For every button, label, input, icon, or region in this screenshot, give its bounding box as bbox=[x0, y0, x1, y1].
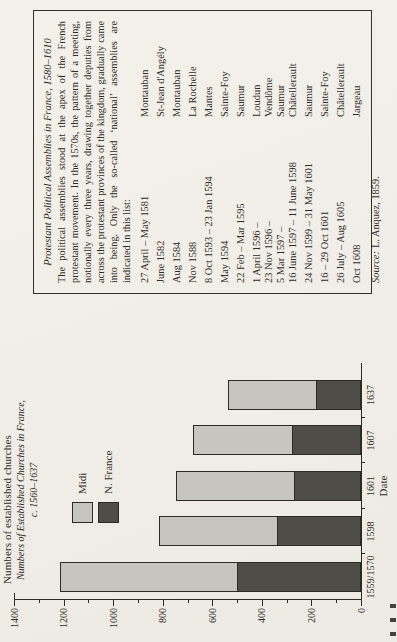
y-minor-tick bbox=[138, 600, 139, 604]
assembly-place: La Rochelle bbox=[187, 67, 199, 118]
assembly-place: Châtellerault bbox=[335, 63, 347, 117]
y-minor-tick bbox=[88, 600, 89, 604]
assembly-date: 22 Feb – Mar 1595 bbox=[235, 203, 246, 283]
assembly-place: Saumur bbox=[303, 85, 315, 117]
chart: Numbers of established churches Numbers … bbox=[0, 321, 397, 642]
scanned-page: Numbers of established churches Numbers … bbox=[0, 0, 397, 642]
y-tick-label: 1200 bbox=[58, 608, 69, 640]
assembly-list: 27 April – May 1581MontaubanJune 1582St-… bbox=[139, 21, 363, 283]
bar-segment-midi bbox=[193, 426, 292, 456]
bar-segment-midi bbox=[60, 562, 238, 592]
assemblies-box-intro: The political assemblies stood at the ap… bbox=[56, 21, 133, 283]
assembly-date: 23 Nov 1596 – bbox=[263, 221, 274, 283]
assembly-entry: Nov 1588La Rochelle bbox=[187, 21, 199, 283]
x-axis bbox=[361, 363, 362, 600]
assembly-date: 16 June 1597 – 11 June 1598 bbox=[287, 162, 298, 283]
assembly-entry: Aug 1584Montauban bbox=[171, 21, 183, 283]
y-minor-tick bbox=[287, 600, 288, 604]
caption-fragment bbox=[390, 594, 397, 640]
assembly-entry: 23 Nov 1596 –Vendôme bbox=[263, 21, 275, 283]
rotated-figure: Numbers of established churches Numbers … bbox=[0, 0, 397, 642]
assembly-date: 5 Mar 1597 – bbox=[275, 227, 286, 283]
assembly-place: Sainte-Foy bbox=[219, 71, 231, 117]
assembly-place: Saumur bbox=[235, 85, 247, 117]
assembly-place: Montauban bbox=[171, 70, 183, 117]
assembly-entry: 5 Mar 1597 –Saumur bbox=[275, 21, 287, 283]
assembly-place: Loudun bbox=[251, 85, 263, 117]
assembly-entry: 16 June 1597 – 11 June 1598Châtellerault bbox=[287, 21, 299, 283]
y-tick-label: 200 bbox=[306, 608, 317, 640]
assembly-entry: 16 – 29 Oct 1601Sainte-Foy bbox=[319, 21, 331, 283]
x-category-label: 1637 bbox=[365, 367, 376, 423]
assembly-place: Saumur bbox=[275, 85, 287, 117]
assemblies-box: Protestant Political Assemblies in Franc… bbox=[33, 10, 372, 294]
assembly-place: Vendôme bbox=[263, 78, 275, 117]
assembly-date: 1 April 1596 – bbox=[251, 223, 262, 283]
assembly-date: Nov 1588 bbox=[187, 242, 198, 283]
y-minor-tick bbox=[237, 600, 238, 604]
assembly-entry: 26 July – Aug 1605Châtellerault bbox=[335, 21, 347, 283]
y-major-tick bbox=[163, 600, 164, 606]
y-major-tick bbox=[262, 600, 263, 606]
assembly-place: Sainte-Foy bbox=[319, 71, 331, 117]
y-major-tick bbox=[212, 600, 213, 606]
assembly-place: Mantes bbox=[203, 86, 215, 117]
assembly-entry: 24 Nov 1599 – 31 May 1601Saumur bbox=[303, 21, 315, 283]
assemblies-box-title: Protestant Political Assemblies in Franc… bbox=[42, 21, 53, 283]
bar-segment-midi bbox=[159, 517, 278, 547]
y-major-tick bbox=[14, 600, 15, 606]
assembly-date: 8 Oct 1593 – 23 Jan 1594 bbox=[203, 176, 214, 283]
assembly-date: June 1582 bbox=[155, 241, 166, 283]
y-tick-label: 1400 bbox=[9, 608, 20, 640]
legend-label-midi: Midi bbox=[76, 473, 88, 494]
y-minor-tick bbox=[188, 600, 189, 604]
assembly-place: Châtellerault bbox=[287, 63, 299, 117]
y-axis-cap bbox=[14, 593, 15, 600]
y-minor-tick bbox=[336, 600, 337, 604]
bar-segment-n-france bbox=[316, 380, 361, 410]
assembly-date: 16 – 29 Oct 1601 bbox=[319, 211, 330, 283]
y-major-tick bbox=[64, 600, 65, 606]
assembly-entry: 8 Oct 1593 – 23 Jan 1594Mantes bbox=[203, 21, 215, 283]
assembly-place: St-Jean d'Angély bbox=[155, 46, 167, 117]
bar-segment-midi bbox=[228, 380, 317, 410]
legend-swatch-n-france bbox=[98, 502, 119, 523]
legend-swatch-midi bbox=[72, 502, 93, 523]
assembly-entry: Oct 1608Jargeau bbox=[351, 21, 363, 283]
assembly-entry: May 1594Sainte-Foy bbox=[219, 21, 231, 283]
assembly-date: 24 Nov 1599 – 31 May 1601 bbox=[303, 163, 314, 283]
y-major-tick bbox=[113, 600, 114, 606]
y-tick-label: 1000 bbox=[108, 608, 119, 640]
assembly-date: 27 April – May 1581 bbox=[139, 196, 150, 283]
caption-mark bbox=[390, 632, 396, 636]
assembly-place: Jargeau bbox=[351, 85, 363, 117]
assembly-date: 26 July – Aug 1605 bbox=[335, 202, 346, 283]
bar-segment-midi bbox=[176, 471, 295, 501]
y-tick-label: 0 bbox=[356, 608, 367, 640]
x-axis-title: Date bbox=[377, 463, 389, 509]
assembly-entry: 1 April 1596 –Loudun bbox=[251, 21, 263, 283]
assembly-entry: 22 Feb – Mar 1595Saumur bbox=[235, 21, 247, 283]
y-major-tick bbox=[311, 600, 312, 606]
bar-segment-n-france bbox=[292, 426, 361, 456]
chart-plot: 02004006008001000120014001559/1570159816… bbox=[0, 321, 397, 642]
y-major-tick bbox=[361, 600, 362, 606]
legend-label-n-france: N. France bbox=[102, 451, 114, 494]
assembly-place: Montauban bbox=[139, 70, 151, 117]
assembly-date: May 1594 bbox=[219, 241, 230, 283]
assembly-date: Aug 1584 bbox=[171, 242, 182, 283]
source-line: Source:L. Anquez, 1859. bbox=[370, 21, 381, 283]
bar-segment-n-france bbox=[294, 471, 361, 501]
y-minor-tick bbox=[39, 600, 40, 604]
caption-mark bbox=[390, 618, 396, 622]
assembly-entry: 27 April – May 1581Montauban bbox=[139, 21, 151, 283]
bar-segment-n-france bbox=[277, 517, 361, 547]
source-text: L. Anquez, 1859. bbox=[370, 176, 381, 248]
assembly-date: Oct 1608 bbox=[351, 245, 362, 283]
bar-segment-n-france bbox=[237, 562, 361, 592]
caption-mark bbox=[390, 604, 396, 608]
y-tick-label: 800 bbox=[157, 608, 168, 640]
assembly-entry: June 1582St-Jean d'Angély bbox=[155, 21, 167, 283]
source-label: Source: bbox=[370, 251, 381, 283]
y-tick-label: 400 bbox=[256, 608, 267, 640]
